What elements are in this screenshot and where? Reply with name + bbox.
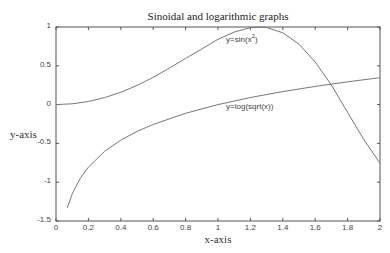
x-tick-label: 0.6 [143,223,163,232]
x-tick-label: 1.8 [338,223,358,232]
x-tick-label: 1.4 [273,223,293,232]
x-tick-label: 2 [370,223,390,232]
x-tick-label: 0.2 [78,223,98,232]
x-tick-label: 1.6 [305,223,325,232]
annotation-sin-end: ) [255,35,258,44]
y-tick-label: 1 [27,21,51,30]
y-tick-label: 0 [27,99,51,108]
x-tick-label: 1 [208,223,228,232]
x-tick-label: 1.2 [240,223,260,232]
y-tick-label: -0.5 [27,137,51,146]
chart: Sinoidal and logarithmic graphs y-axis x… [0,0,390,253]
x-tick-label: 0 [46,223,66,232]
x-tick-label: 0.4 [111,223,131,232]
series-line-sin [56,27,380,163]
y-tick-label: -1 [27,176,51,185]
series-line-log [67,78,380,208]
annotation-sin-base: y=sin(x [226,35,252,44]
x-tick-label: 0.8 [176,223,196,232]
y-tick-label: 0.5 [27,60,51,69]
axes-box [56,27,380,221]
annotation-sin: y=sin(x2) [226,33,258,44]
y-tick-label: -1.5 [27,215,51,224]
annotation-log: y=log(sqrt(x)) [226,102,273,111]
plot-area [0,0,390,253]
